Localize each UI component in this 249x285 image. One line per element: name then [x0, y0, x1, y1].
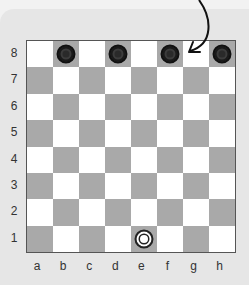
curved-arrow-icon — [0, 0, 249, 285]
